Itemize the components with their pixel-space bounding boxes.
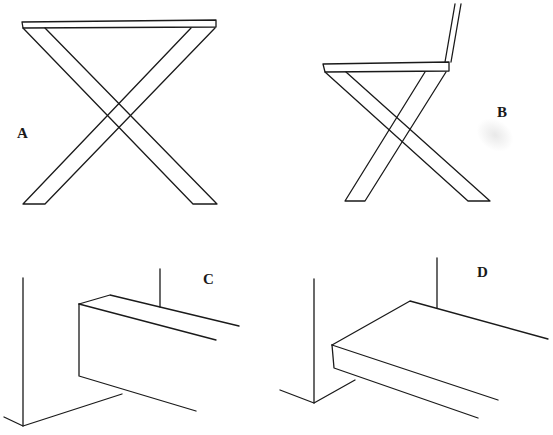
panel-c-label: C xyxy=(203,271,214,288)
panel-a-label: A xyxy=(17,125,28,142)
line-drawing-figure xyxy=(0,0,553,435)
panel-c-rail-drawing xyxy=(4,269,239,426)
panel-a-stool-drawing xyxy=(22,20,217,204)
panel-b-chair-drawing xyxy=(323,4,490,201)
panel-d-label: D xyxy=(477,264,488,281)
panel-d-slab-drawing xyxy=(280,258,548,418)
